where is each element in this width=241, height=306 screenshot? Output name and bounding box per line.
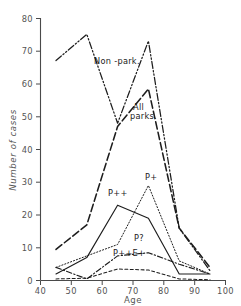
x-tick-label-60: 60 <box>97 286 108 296</box>
y-tick-label-30: 30 <box>22 177 33 187</box>
x-tick-label-40: 40 <box>35 286 46 296</box>
x-tick-label-100: 100 <box>217 286 234 296</box>
curve-label-non-park: Non -park. <box>94 56 140 66</box>
y-axis-title: Number of cases <box>8 109 18 191</box>
line-chart-canvas: 0 10 20 30 40 50 60 70 80 40 50 60 70 80… <box>0 0 241 306</box>
x-axis-title: Age <box>124 295 142 305</box>
y-ticks-group: 0 10 20 30 40 50 60 70 80 <box>22 14 41 286</box>
y-tick-label-0: 0 <box>27 276 33 286</box>
y-tick-label-60: 60 <box>22 79 33 89</box>
curve-label-p-plus-plus: P++ <box>108 188 128 198</box>
y-tick-label-70: 70 <box>22 46 33 56</box>
x-tick-label-50: 50 <box>66 286 77 296</box>
chart-figure: 0 10 20 30 40 50 60 70 80 40 50 60 70 80… <box>0 0 241 306</box>
curve-label-p-question: P? <box>134 233 144 243</box>
x-tick-label-90: 90 <box>189 286 200 296</box>
x-ticks-group: 40 50 60 70 80 90 100 <box>35 281 234 297</box>
y-tick-label-50: 50 <box>22 112 33 122</box>
y-tick-label-40: 40 <box>22 145 33 155</box>
series-line-p-plus <box>56 186 210 275</box>
y-tick-label-20: 20 <box>22 210 33 220</box>
curve-label-all-parks-line2: parks. <box>130 111 157 121</box>
series-line-non-park <box>56 34 210 270</box>
x-tick-label-80: 80 <box>158 286 169 296</box>
y-tick-label-80: 80 <box>22 14 33 24</box>
curve-label-p-plus-plus-e-plus: P++E+ <box>113 248 145 258</box>
curve-label-p-plus: P+ <box>145 172 157 182</box>
y-tick-label-10: 10 <box>22 243 33 253</box>
